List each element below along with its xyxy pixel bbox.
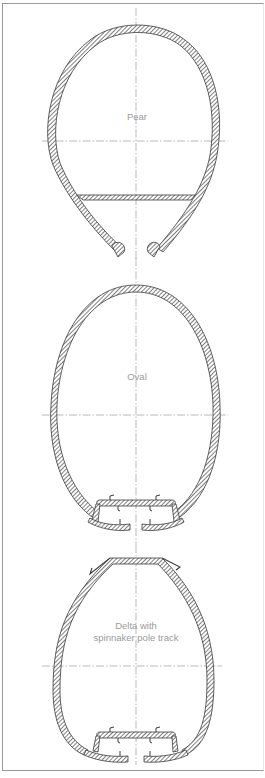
mast-sections-diagram: Pear Oval [0, 0, 265, 778]
delta-track-top [97, 732, 176, 738]
delta-track-bottom-right [144, 750, 188, 762]
delta-section: Delta with spinnaker pole track [42, 545, 222, 765]
oval-track-top [97, 500, 176, 506]
delta-label-line1: Delta with [115, 620, 157, 631]
oval-wall [51, 285, 221, 517]
delta-track-hooks [110, 727, 160, 756]
delta-track-right-wall [172, 736, 178, 752]
pear-label: Pear [127, 111, 147, 122]
oval-track-hooks [110, 495, 160, 524]
delta-track-left-wall [93, 736, 100, 752]
pear-internal-web [77, 195, 195, 200]
oval-label: Oval [127, 371, 147, 382]
oval-section: Oval [42, 258, 228, 545]
pear-section: Pear [42, 8, 228, 260]
oval-track-bottom-right [142, 518, 184, 531]
delta-wall [53, 558, 214, 755]
pear-groove-left-lip [112, 242, 125, 257]
delta-label-line2: spinnaker pole track [93, 632, 178, 643]
delta-track-bottom-left [84, 750, 128, 762]
oval-track-bottom-left [88, 518, 130, 531]
pear-wall [48, 25, 220, 252]
pear-groove-right-lip [147, 242, 160, 257]
